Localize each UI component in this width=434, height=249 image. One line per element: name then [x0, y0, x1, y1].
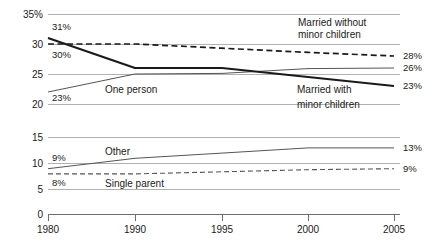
series-annotation-married-with-minor-children-line1: Married with: [297, 84, 351, 95]
series-annotation-other: Other: [105, 146, 131, 157]
series-line-single-parent: [48, 169, 394, 174]
x-axis: 1980 1990 1995 2000 2005: [37, 215, 406, 236]
series-annotation-married-with-minor-children-line2: minor children: [297, 99, 360, 110]
series-annotation-single-parent: Single parent: [105, 178, 164, 189]
start-label-one-person: 23%: [52, 92, 72, 103]
y-tick-upper-20: 20: [32, 99, 44, 110]
end-label-one-person: 26%: [403, 62, 423, 73]
y-tick-lower-10: 10: [32, 158, 44, 169]
series-annotation-married-without-minor-children-line1: Married without: [298, 17, 367, 28]
lower-panel-gridlines: [48, 138, 400, 190]
x-tick-label-1995: 1995: [211, 224, 234, 235]
end-label-married-without-minor-children: 28%: [403, 50, 423, 61]
upper-panel: 35% 30 25 20 31% 30% 23% 28% 26% 23% Mar…: [23, 9, 423, 110]
series-annotation-married-without-minor-children-line2: minor children: [298, 29, 361, 40]
lower-panel: 15 10 5 0 9% 8% 13% 9% Other Single pare…: [32, 132, 423, 220]
end-label-married-with-minor-children: 23%: [403, 80, 423, 91]
start-label-married-with-minor-children: 31%: [52, 21, 72, 32]
chart-canvas: 35% 30 25 20 31% 30% 23% 28% 26% 23% Mar…: [0, 0, 434, 249]
x-tick-label-2000: 2000: [297, 224, 320, 235]
y-tick-upper-35: 35%: [23, 9, 43, 20]
y-tick-upper-30: 30: [32, 39, 44, 50]
start-label-single-parent: 8%: [52, 177, 66, 188]
lower-panel-y-axis: 15 10 5 0: [32, 132, 44, 220]
end-label-single-parent: 9%: [403, 163, 417, 174]
start-label-other: 9%: [52, 152, 66, 163]
y-tick-lower-0: 0: [37, 209, 43, 220]
y-tick-lower-15: 15: [32, 132, 44, 143]
end-label-other: 13%: [403, 142, 423, 153]
x-tick-label-2005: 2005: [383, 224, 406, 235]
y-tick-upper-25: 25: [32, 69, 44, 80]
series-annotation-one-person: One person: [105, 84, 157, 95]
y-tick-lower-5: 5: [37, 184, 43, 195]
x-tick-label-1990: 1990: [124, 224, 147, 235]
series-line-other: [48, 148, 394, 169]
start-label-married-without-minor-children: 30%: [52, 49, 72, 60]
series-line-married-without-minor-children: [48, 44, 394, 56]
x-tick-label-1980: 1980: [37, 224, 60, 235]
upper-panel-y-axis: 35% 30 25 20: [23, 9, 43, 110]
household-composition-line-chart: 35% 30 25 20 31% 30% 23% 28% 26% 23% Mar…: [0, 0, 434, 249]
series-line-married-with-minor-children: [48, 38, 394, 86]
